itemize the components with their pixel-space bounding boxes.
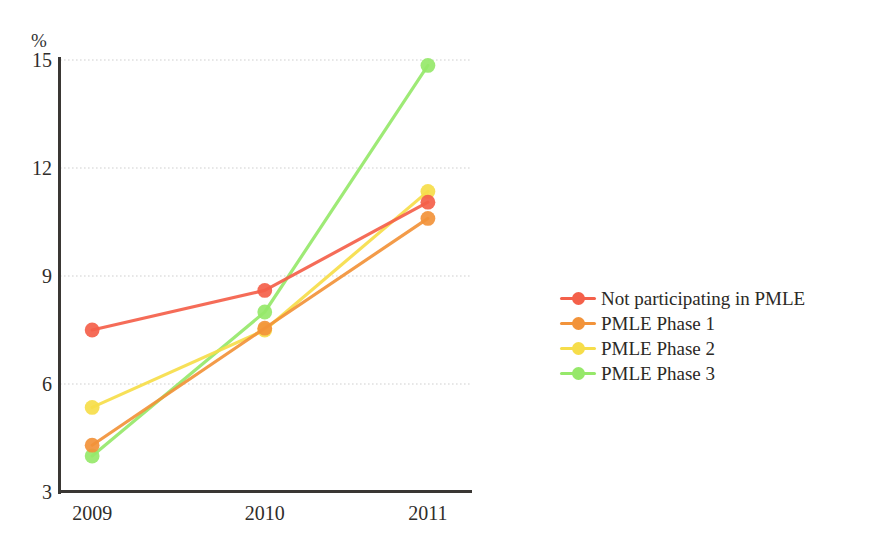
legend-marker-icon	[560, 313, 596, 333]
y-tick-label: 3	[12, 482, 52, 502]
data-point-marker	[421, 58, 436, 73]
data-point-marker	[257, 283, 272, 298]
chart-canvas	[60, 60, 472, 492]
legend-label: PMLE Phase 3	[601, 363, 715, 384]
series-line	[92, 191, 428, 407]
plot-area	[60, 60, 472, 492]
series-3	[85, 184, 436, 415]
legend-label: PMLE Phase 1	[601, 313, 715, 334]
legend-marker-icon	[560, 338, 596, 358]
series-4	[85, 58, 436, 463]
series-line	[92, 65, 428, 456]
data-point-marker	[257, 305, 272, 320]
legend-dot	[572, 317, 585, 330]
y-tick-label: 6	[12, 374, 52, 394]
data-point-marker	[85, 438, 100, 453]
y-axis-tick-labels: 1512963	[6, 0, 52, 551]
legend-label: PMLE Phase 2	[601, 338, 715, 359]
legend-marker-icon	[560, 363, 596, 383]
series-2	[85, 211, 436, 453]
x-tick-label: 2011	[383, 502, 473, 524]
data-point-marker	[421, 195, 436, 210]
legend-item[interactable]: PMLE Phase 3	[560, 361, 860, 385]
legend-item[interactable]: Not participating in PMLE	[560, 286, 860, 310]
data-point-marker	[85, 400, 100, 415]
data-point-marker	[257, 321, 272, 336]
data-series-group	[85, 58, 436, 463]
x-tick-label: 2010	[220, 502, 310, 524]
legend-dot	[572, 292, 585, 305]
x-tick-label: 2009	[47, 502, 137, 524]
data-point-marker	[421, 211, 436, 226]
legend-item[interactable]: PMLE Phase 1	[560, 311, 860, 335]
legend-item[interactable]: PMLE Phase 2	[560, 336, 860, 360]
line-chart-figure: % 1512963 200920102011 Not participating…	[0, 0, 878, 551]
chart-legend: Not participating in PMLEPMLE Phase 1PML…	[560, 286, 860, 386]
data-point-marker	[85, 323, 100, 338]
y-tick-label: 12	[12, 158, 52, 178]
y-axis-line	[58, 57, 61, 494]
y-tick-label: 15	[12, 50, 52, 70]
legend-label: Not participating in PMLE	[601, 288, 805, 309]
legend-dot	[572, 342, 585, 355]
y-tick-label: 9	[12, 266, 52, 286]
legend-marker-icon	[560, 288, 596, 308]
legend-dot	[572, 367, 585, 380]
x-axis-line	[58, 490, 472, 493]
